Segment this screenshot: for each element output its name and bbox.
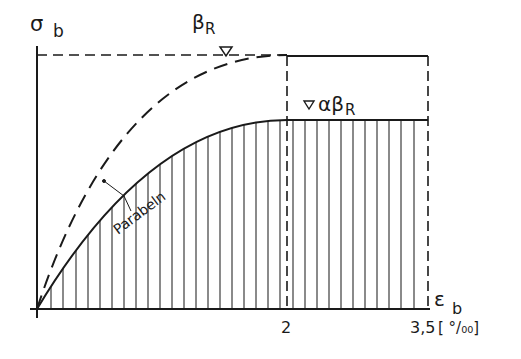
- x-tick-2: 2: [281, 318, 291, 337]
- y-axis-subscript: b: [53, 21, 64, 41]
- stress-strain-diagram: σ b β R αβ R Parabeln ε b 2 3,5 [ °/₀₀]: [0, 0, 521, 359]
- beta-r-curve: [37, 55, 287, 309]
- alpha-beta-r-subscript: R: [345, 101, 355, 119]
- alpha-beta-r-label: αβ: [318, 92, 344, 116]
- x-axis-label: ε: [434, 287, 445, 311]
- alpha-beta-r-marker-icon: [304, 101, 314, 109]
- x-unit: [ °/₀₀]: [438, 319, 479, 337]
- parabola-leader: [103, 180, 132, 212]
- x-tick-3-5: 3,5: [410, 318, 435, 337]
- beta-r-label: β: [192, 10, 205, 34]
- hatched-area: [51, 100, 414, 309]
- beta-r-subscript: R: [205, 20, 215, 38]
- y-axis-label: σ: [30, 12, 43, 36]
- x-axis-subscript: b: [452, 299, 462, 318]
